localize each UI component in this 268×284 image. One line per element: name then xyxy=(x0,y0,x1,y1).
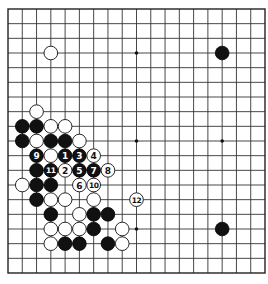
white-stone-icon xyxy=(44,46,58,60)
white-stone: 2 xyxy=(58,163,72,177)
white-stone-icon xyxy=(58,222,72,236)
white-stone xyxy=(44,237,58,251)
white-stone-icon xyxy=(73,134,87,148)
white-stone xyxy=(30,105,44,119)
black-stone xyxy=(30,119,44,133)
move-number-label: 12 xyxy=(132,196,142,205)
black-stone-icon xyxy=(30,119,44,133)
move-number-label: 6 xyxy=(76,181,82,191)
white-stone: 4 xyxy=(87,149,101,163)
white-stone-icon xyxy=(30,105,44,119)
move-number-label: 5 xyxy=(76,166,82,176)
move-number-label: 11 xyxy=(46,166,56,175)
black-stone: 3 xyxy=(73,149,87,163)
black-stone xyxy=(44,207,58,221)
white-stone xyxy=(44,149,58,163)
white-stone-icon xyxy=(44,237,58,251)
black-stone xyxy=(73,237,87,251)
black-stone xyxy=(44,134,58,148)
black-stone: 11 xyxy=(44,163,58,177)
black-stone xyxy=(58,237,72,251)
black-stone-icon xyxy=(30,193,44,207)
black-stone xyxy=(30,163,44,177)
white-stone xyxy=(58,193,72,207)
white-stone xyxy=(73,222,87,236)
white-stone-icon xyxy=(58,193,72,207)
black-stone-icon xyxy=(101,207,115,221)
star-point-icon xyxy=(220,139,224,143)
white-stone-icon xyxy=(44,149,58,163)
black-stone: 5 xyxy=(73,163,87,177)
go-board: 913411257861012 xyxy=(0,0,268,284)
black-stone-icon xyxy=(87,222,101,236)
black-stone-icon xyxy=(58,134,72,148)
black-stone xyxy=(30,178,44,192)
black-stone: 1 xyxy=(58,149,72,163)
white-stone-icon xyxy=(44,193,58,207)
white-stone-icon xyxy=(30,134,44,148)
white-stone-icon xyxy=(44,222,58,236)
black-stone xyxy=(215,46,229,60)
star-point-icon xyxy=(135,51,139,55)
black-stone xyxy=(30,193,44,207)
white-stone-icon xyxy=(115,222,129,236)
white-stone: 12 xyxy=(130,193,144,207)
white-stone-icon xyxy=(58,119,72,133)
white-stone xyxy=(87,193,101,207)
white-stone: 10 xyxy=(87,178,101,192)
black-stone-icon xyxy=(101,237,115,251)
white-stone xyxy=(115,222,129,236)
black-stone-icon xyxy=(44,178,58,192)
white-stone-icon xyxy=(87,193,101,207)
white-stone xyxy=(44,46,58,60)
white-stone xyxy=(73,134,87,148)
black-stone xyxy=(15,134,29,148)
move-number-label: 10 xyxy=(89,181,99,190)
white-stone: 8 xyxy=(101,163,115,177)
white-stone xyxy=(15,178,29,192)
black-stone-icon xyxy=(73,237,87,251)
black-stone-icon xyxy=(30,163,44,177)
move-number-label: 7 xyxy=(91,166,97,176)
star-point-icon xyxy=(135,227,139,231)
black-stone xyxy=(101,207,115,221)
black-stone xyxy=(87,222,101,236)
white-stone xyxy=(58,222,72,236)
black-stone-icon xyxy=(215,46,229,60)
white-stone: 6 xyxy=(73,178,87,192)
move-number-label: 9 xyxy=(33,151,39,161)
black-stone xyxy=(58,134,72,148)
white-stone xyxy=(44,222,58,236)
white-stone-icon xyxy=(44,119,58,133)
black-stone xyxy=(15,119,29,133)
white-stone-icon xyxy=(73,207,87,221)
white-stone-icon xyxy=(115,237,129,251)
black-stone-icon xyxy=(15,119,29,133)
black-stone xyxy=(87,207,101,221)
black-stone-icon xyxy=(15,134,29,148)
black-stone-icon xyxy=(44,134,58,148)
move-number-label: 4 xyxy=(91,151,97,161)
move-number-label: 8 xyxy=(105,166,111,176)
white-stone-icon xyxy=(73,222,87,236)
white-stone xyxy=(44,119,58,133)
go-board-diagram: 913411257861012 xyxy=(0,0,268,284)
white-stone xyxy=(58,119,72,133)
white-stone xyxy=(73,207,87,221)
move-number-label: 1 xyxy=(62,151,68,161)
black-stone-icon xyxy=(87,207,101,221)
white-stone xyxy=(30,134,44,148)
black-stone xyxy=(215,222,229,236)
white-stone-icon xyxy=(15,178,29,192)
move-number-label: 2 xyxy=(62,166,68,176)
black-stone xyxy=(44,178,58,192)
black-stone-icon xyxy=(30,178,44,192)
black-stone-icon xyxy=(44,207,58,221)
black-stone xyxy=(101,237,115,251)
white-stone xyxy=(115,237,129,251)
black-stone: 7 xyxy=(87,163,101,177)
white-stone xyxy=(44,193,58,207)
black-stone-icon xyxy=(58,237,72,251)
black-stone: 9 xyxy=(30,149,44,163)
move-number-label: 3 xyxy=(76,151,82,161)
